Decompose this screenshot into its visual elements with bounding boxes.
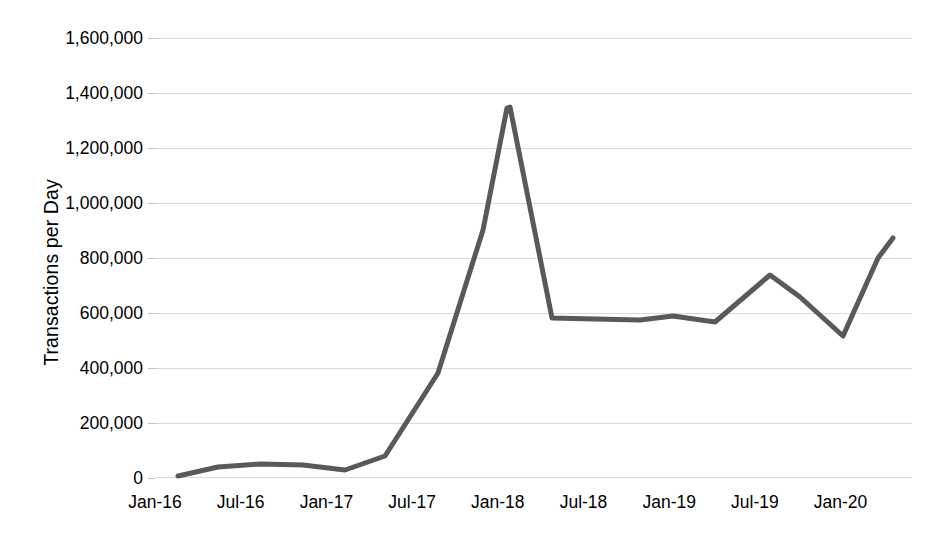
- y-axis-tick-label: 1,400,000: [65, 83, 143, 104]
- y-axis-tick-mark: [148, 93, 155, 94]
- y-axis-tick-label: 0: [133, 468, 143, 489]
- x-axis-tick-label: Jan-19: [642, 492, 696, 513]
- y-axis-tick-label: 400,000: [80, 358, 143, 379]
- x-axis-tick-label: Jan-18: [471, 492, 525, 513]
- x-axis-tick-label: Jan-17: [300, 492, 354, 513]
- y-axis-tick-label: 1,200,000: [65, 138, 143, 159]
- x-axis-tick-label: Jul-18: [560, 492, 608, 513]
- line-chart: Transactions per Day 1,600,0001,400,0001…: [0, 0, 929, 545]
- y-axis-tick-mark: [148, 368, 155, 369]
- x-axis-tick-labels: Jan-16Jul-16Jan-17Jul-17Jan-18Jul-18Jan-…: [0, 492, 929, 522]
- series-line-svg: [155, 38, 912, 478]
- plot-area: [155, 38, 912, 478]
- y-axis-tick-labels: 1,600,0001,400,0001,200,0001,000,000800,…: [0, 0, 143, 545]
- y-axis-tick-mark: [148, 203, 155, 204]
- y-axis-tick-label: 200,000: [80, 413, 143, 434]
- x-axis-tick-label: Jul-19: [731, 492, 779, 513]
- y-axis-tick-mark: [148, 423, 155, 424]
- y-axis-tick-mark: [148, 258, 155, 259]
- x-axis-tick-label: Jan-16: [128, 492, 182, 513]
- series-line-transactions-per-day: [178, 107, 893, 476]
- y-axis-tick-mark: [148, 38, 155, 39]
- x-axis-tick-label: Jul-16: [217, 492, 265, 513]
- y-axis-tick-label: 600,000: [80, 303, 143, 324]
- y-axis-tick-mark: [148, 313, 155, 314]
- y-axis-tick-label: 1,000,000: [65, 193, 143, 214]
- x-axis-tick-label: Jan-20: [814, 492, 868, 513]
- y-axis-tick-mark: [148, 148, 155, 149]
- y-axis-tick-label: 800,000: [80, 248, 143, 269]
- y-axis-tick-mark: [148, 478, 155, 479]
- y-axis-tick-label: 1,600,000: [65, 28, 143, 49]
- x-axis-tick-label: Jul-17: [388, 492, 436, 513]
